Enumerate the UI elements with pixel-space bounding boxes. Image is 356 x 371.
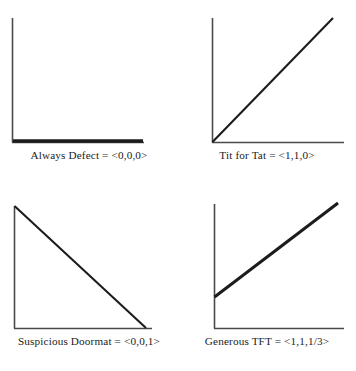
plot-panel-suspicious-doormat: Suspicious Doormat = <0,0,1>: [0, 186, 178, 371]
plot-panel-generous-tft: Generous TFT = <1,1,1/3>: [178, 186, 356, 371]
panel-caption: Always Defect = <0,0,0>: [0, 148, 178, 163]
plot-axes-always-defect: [0, 0, 178, 150]
plot-panel-tit-for-tat: Tit for Tat = <1,1,0>: [178, 0, 356, 185]
panel-caption: Suspicious Doormat = <0,0,1>: [0, 334, 178, 349]
plot-axes-suspicious-doormat: [0, 186, 178, 336]
strategy-plot-figure: Always Defect = <0,0,0> Tit for Tat = <1…: [0, 0, 356, 371]
plot-axes-generous-tft: [178, 186, 356, 336]
panel-caption: Tit for Tat = <1,1,0>: [178, 148, 356, 163]
panel-caption: Generous TFT = <1,1,1/3>: [178, 334, 356, 349]
strategy-curve: [213, 18, 334, 142]
plot-axes-tit-for-tat: [178, 0, 356, 150]
plot-panel-always-defect: Always Defect = <0,0,0>: [0, 0, 178, 185]
strategy-curve: [215, 203, 339, 297]
strategy-curve: [15, 206, 147, 328]
